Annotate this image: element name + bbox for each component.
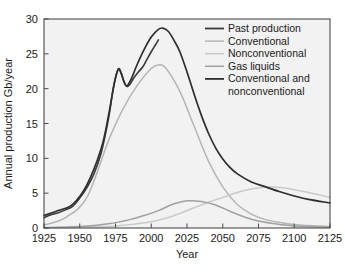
y-tick-label: 15	[26, 118, 38, 130]
x-tick-label: 2100	[282, 232, 306, 244]
legend-item-label: Past production	[228, 22, 301, 34]
y-tick-label: 5	[32, 187, 38, 199]
oil-production-chart: 192519501975200020252050207521002125 051…	[0, 0, 345, 273]
x-tick-label: 2050	[211, 232, 235, 244]
legend-item-label: nonconventional	[228, 85, 304, 97]
y-tick-label: 10	[26, 152, 38, 164]
legend-item-label: Gas liquids	[228, 60, 280, 72]
legend-item-label: Nonconventional	[228, 47, 306, 59]
y-tick-label: 30	[26, 13, 38, 25]
x-tick-label: 1950	[68, 232, 92, 244]
chart-canvas: 192519501975200020252050207521002125 051…	[0, 0, 345, 273]
x-tick-label: 2025	[175, 232, 199, 244]
y-axis-title: Annual production Gb/year	[2, 58, 14, 189]
legend-item-label: Conventional and	[228, 72, 310, 84]
y-tick-label: 0	[32, 222, 38, 234]
x-tick-label: 1975	[103, 232, 127, 244]
y-tick-label: 20	[26, 83, 38, 95]
x-axis-title: Year	[176, 248, 199, 260]
x-tick-label: 2075	[246, 232, 270, 244]
legend-item-label: Conventional	[228, 35, 289, 47]
y-tick-label: 25	[26, 48, 38, 60]
x-tick-label: 2000	[139, 232, 163, 244]
x-tick-label: 2125	[318, 232, 342, 244]
